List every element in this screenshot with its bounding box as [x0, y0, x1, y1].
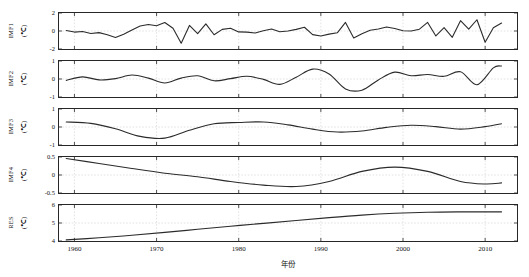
series-imf2 [59, 61, 517, 97]
ytick-imf1-1: 0 [22, 27, 55, 34]
axis-label-imf2: IMF2 [7, 61, 14, 97]
ytick-imf2-2: -1 [22, 93, 55, 100]
plot-area-imf2 [58, 60, 518, 98]
axis-label-imf1: IMF1 [7, 13, 14, 49]
ytick-imf4-0: 0.5 [22, 153, 55, 160]
series-imf3 [59, 109, 517, 145]
series-imf1 [59, 13, 517, 49]
ytick-imf4-2: -0.5 [22, 189, 55, 196]
ytick-imf2-0: 1 [22, 57, 55, 64]
xtick-0: 1960 [54, 245, 94, 253]
xtick-3: 1990 [301, 245, 341, 253]
ytick-imf3-2: -1 [22, 141, 55, 148]
ytick-imf1-2: -2 [22, 45, 55, 52]
xtick-4: 2000 [383, 245, 423, 253]
xtick-2: 1980 [219, 245, 259, 253]
axis-unit-res: (℃) [20, 205, 28, 241]
axis-unit-imf1: (℃) [20, 13, 28, 49]
axis-unit-imf4: (℃) [20, 157, 28, 193]
axis-unit-imf3: (℃) [20, 109, 28, 145]
data-line [66, 66, 501, 91]
axis-label-imf4: IMF4 [7, 157, 14, 193]
plot-area-imf1 [58, 12, 518, 50]
data-line [66, 212, 501, 240]
ytick-imf1-0: 2 [22, 9, 55, 16]
xtick-1: 1970 [137, 245, 177, 253]
xtick-5: 2010 [465, 245, 505, 253]
data-line [66, 158, 501, 186]
ytick-imf3-0: 1 [22, 105, 55, 112]
series-imf4 [59, 157, 517, 193]
figure-emd-decomposition: 20-2IMF1(℃)10-1IMF2(℃)10-1IMF3(℃)0.50-0.… [0, 0, 529, 277]
ytick-imf2-1: 0 [22, 75, 55, 82]
axis-label-res: RES [7, 205, 14, 241]
ytick-imf4-1: 0 [22, 171, 55, 178]
ytick-imf3-1: 0 [22, 123, 55, 130]
plot-area-imf3 [58, 108, 518, 146]
plot-area-res [58, 204, 518, 242]
axis-label-imf3: IMF3 [7, 109, 14, 145]
series-res [59, 205, 517, 241]
plot-area-imf4 [58, 156, 518, 194]
ytick-res-2: 4 [22, 237, 55, 244]
ytick-res-0: 6 [22, 201, 55, 208]
data-line [66, 122, 501, 139]
ytick-res-1: 5 [22, 219, 55, 226]
axis-unit-imf2: (℃) [20, 61, 28, 97]
axis-label-x: 年份 [248, 258, 328, 269]
data-line [66, 20, 501, 43]
